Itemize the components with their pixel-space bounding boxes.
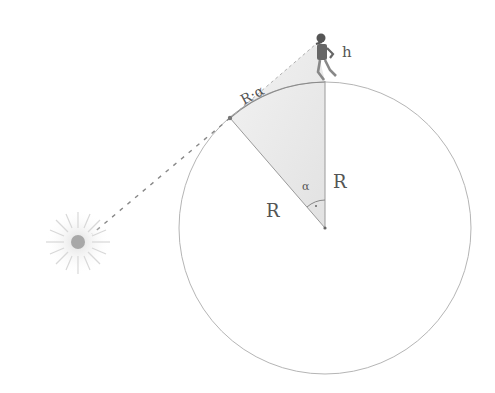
observer-figure (316, 34, 336, 81)
label-radius-left: R (266, 200, 280, 221)
label-angle: α (302, 180, 310, 193)
label-radius-right: R (333, 171, 347, 192)
right-angle-dot (315, 205, 317, 207)
sun-ray (92, 118, 230, 234)
label-height: h (342, 43, 352, 61)
tangent-point (228, 116, 232, 120)
horizon-diagram: R·α h R R α (0, 0, 495, 393)
center-point (323, 226, 326, 229)
sun-icon (46, 210, 110, 274)
